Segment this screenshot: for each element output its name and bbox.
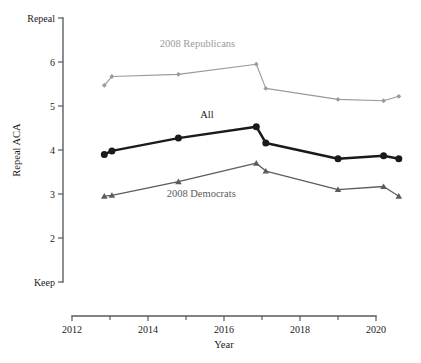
- y-tick-label: Repeal: [27, 13, 55, 24]
- data-point-circle: [108, 147, 115, 154]
- x-tick-label: 2012: [62, 324, 82, 335]
- x-axis-title: Year: [214, 339, 234, 350]
- data-point-circle: [395, 155, 402, 162]
- series-line: [104, 64, 399, 101]
- y-tick-label: Keep: [34, 277, 55, 288]
- chart-container: Keep23456RepealRepeal ACA201220142016201…: [0, 0, 421, 363]
- y-axis-title: Repeal ACA: [11, 123, 22, 177]
- data-point-circle: [335, 155, 342, 162]
- x-tick-label: 2016: [214, 324, 234, 335]
- data-point-diamond: [336, 97, 341, 102]
- y-axis: Keep23456RepealRepeal ACA: [11, 13, 63, 288]
- series-label-2008-republicans: 2008 Republicans: [160, 38, 236, 49]
- data-point-triangle: [396, 193, 403, 199]
- data-point-circle: [262, 139, 269, 146]
- series-2008-democrats: [101, 160, 402, 199]
- series-2008-republicans: [102, 62, 401, 103]
- x-tick-label: 2020: [366, 324, 386, 335]
- data-point-diamond: [254, 62, 259, 67]
- x-tick-label: 2018: [290, 324, 310, 335]
- y-tick-label: 2: [50, 233, 55, 244]
- data-point-circle: [253, 123, 260, 130]
- series-line: [104, 163, 399, 196]
- data-point-circle: [101, 151, 108, 158]
- y-tick-label: 4: [50, 145, 55, 156]
- x-axis: 20122014201620182020Year: [62, 316, 386, 350]
- x-tick-label: 2014: [138, 324, 158, 335]
- series-label-all: All: [200, 109, 214, 120]
- series-line: [104, 127, 399, 159]
- data-point-triangle: [253, 160, 260, 166]
- y-tick-label: 5: [50, 101, 55, 112]
- data-point-circle: [380, 152, 387, 159]
- y-tick-label: 6: [50, 57, 55, 68]
- data-point-diamond: [396, 94, 401, 99]
- series-label-2008-democrats: 2008 Democrats: [167, 188, 236, 199]
- data-point-diamond: [263, 86, 268, 91]
- data-point-diamond: [176, 72, 181, 77]
- data-point-circle: [175, 135, 182, 142]
- y-tick-label: 3: [50, 189, 55, 200]
- data-point-diamond: [381, 98, 386, 103]
- repeal-aca-line-chart: Keep23456RepealRepeal ACA201220142016201…: [0, 0, 421, 363]
- series-all: [101, 123, 403, 162]
- series-annotations: 2008 RepublicansAll2008 Democrats: [160, 38, 236, 199]
